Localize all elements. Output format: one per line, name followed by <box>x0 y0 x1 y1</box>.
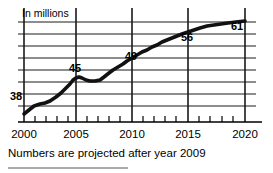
data-label-2020: 61 <box>231 20 243 32</box>
data-label-2000: 38 <box>10 90 22 102</box>
chart-caption: Numbers are projected after year 2009 <box>8 147 206 159</box>
xtick-label-2005: 2005 <box>63 128 89 140</box>
xtick-label-2000: 2000 <box>11 128 37 140</box>
data-label-2005: 45 <box>69 62 81 74</box>
xtick-label-2020: 2020 <box>232 128 258 140</box>
xtick-label-2015: 2015 <box>175 128 201 140</box>
line-chart-figure: In millions 38 45 49 56 61 2000 2005 201… <box>0 0 273 173</box>
data-label-2015: 56 <box>181 31 193 43</box>
chart-canvas: In millions 38 45 49 56 61 2000 2005 201… <box>0 0 273 173</box>
unit-label: In millions <box>22 7 69 19</box>
data-label-2010: 49 <box>125 50 137 62</box>
xtick-label-2010: 2010 <box>119 128 145 140</box>
